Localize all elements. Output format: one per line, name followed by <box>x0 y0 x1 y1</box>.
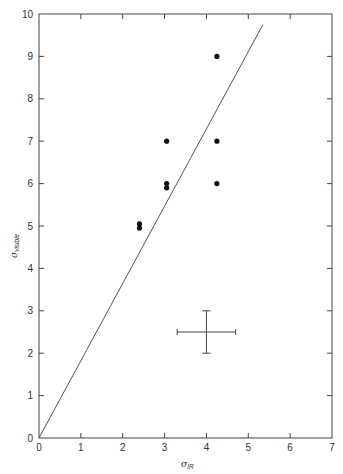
y-tick-label: 9 <box>27 51 33 62</box>
y-tick-label: 5 <box>27 221 33 232</box>
error-bar-key <box>177 311 236 353</box>
x-tick-label: 1 <box>78 442 84 453</box>
data-point <box>164 185 169 190</box>
x-tick-label: 6 <box>287 442 293 453</box>
data-point <box>214 54 219 59</box>
y-tick-label: 1 <box>27 390 33 401</box>
y-tick-label: 2 <box>27 348 33 359</box>
scatter-chart: 01234567012345678910 σIR σvisible <box>0 0 343 474</box>
y-axis-label: σvisible <box>9 233 20 258</box>
data-point <box>214 139 219 144</box>
reference-line <box>39 25 263 438</box>
y-tick-label: 8 <box>27 93 33 104</box>
x-tick-label: 4 <box>204 442 210 453</box>
y-tick-label: 0 <box>27 433 33 444</box>
plot-frame <box>39 14 332 438</box>
x-tick-label: 7 <box>329 442 335 453</box>
y-tick-label: 6 <box>27 178 33 189</box>
x-tick-label: 5 <box>246 442 252 453</box>
y-tick-label: 10 <box>22 9 34 20</box>
x-tick-label: 2 <box>120 442 126 453</box>
y-tick-label: 4 <box>27 263 33 274</box>
y-tick-label: 7 <box>27 136 33 147</box>
x-tick-label: 3 <box>162 442 168 453</box>
x-tick-label: 0 <box>36 442 42 453</box>
data-point <box>164 139 169 144</box>
data-point <box>137 226 142 231</box>
axis-ticks: 01234567012345678910 <box>22 9 335 454</box>
data-point <box>214 181 219 186</box>
axis-labels: σIR σvisible <box>9 233 194 470</box>
data-points <box>137 54 220 231</box>
y-tick-label: 3 <box>27 305 33 316</box>
x-axis-label: σIR <box>181 459 194 470</box>
